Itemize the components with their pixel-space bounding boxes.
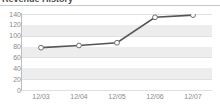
y-axis-tick-label: 0	[1, 87, 21, 94]
data-point-marker[interactable]	[115, 40, 120, 45]
data-point-marker[interactable]	[77, 43, 82, 48]
data-point-marker[interactable]	[39, 45, 44, 50]
x-axis-tick-label: 12/05	[102, 93, 132, 101]
y-axis: 020406080100120140	[0, 0, 21, 107]
x-axis: 12/0312/0412/0512/0612/07	[22, 93, 212, 105]
x-axis-tick-label: 12/06	[140, 93, 170, 101]
revenue-markers	[39, 14, 196, 50]
x-axis-tick-label: 12/04	[64, 93, 94, 101]
y-axis-tick-label: 120	[1, 21, 21, 28]
data-point-marker[interactable]	[153, 15, 158, 20]
y-axis-tick-label: 20	[1, 76, 21, 83]
y-axis-tick-label: 80	[1, 43, 21, 50]
plot-area	[22, 14, 212, 90]
revenue-history-chart-widget: Revenue History 020406080100120140 12/03…	[0, 0, 220, 107]
x-axis-tick-label: 12/07	[178, 93, 208, 101]
line-series-svg	[22, 14, 212, 90]
x-axis-tick-label: 12/03	[26, 93, 56, 101]
y-axis-tick-label: 60	[1, 54, 21, 61]
grid-line	[22, 90, 212, 91]
data-point-marker[interactable]	[191, 14, 196, 17]
title-divider	[0, 5, 220, 6]
y-axis-tick-label: 100	[1, 32, 21, 39]
y-axis-tick-label: 40	[1, 65, 21, 72]
y-axis-tick-label: 140	[1, 11, 21, 18]
